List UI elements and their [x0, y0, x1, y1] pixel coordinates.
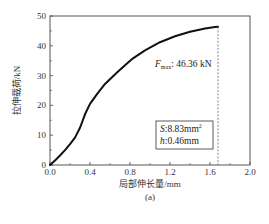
- y-tick-label: 40: [37, 41, 47, 51]
- x-tick-label: 0.4: [84, 167, 96, 177]
- figure-caption: (a): [145, 192, 155, 202]
- annotations: Fmax: 46.36 kNS:8.83mm2h:0.46mm: [154, 27, 218, 165]
- load-elongation-chart: 0.00.40.81.21.62.001020304050局部伸长量/mm拉伸载…: [0, 0, 269, 224]
- y-tick-label: 10: [37, 130, 47, 140]
- plot-frame: [50, 16, 250, 165]
- y-tick-label: 30: [37, 71, 47, 81]
- plot-axes: 0.00.40.81.21.62.001020304050局部伸长量/mm拉伸载…: [11, 11, 256, 202]
- x-tick-label: 1.2: [164, 167, 175, 177]
- thickness: h:0.46mm: [160, 136, 199, 146]
- x-tick-label: 0.0: [44, 167, 56, 177]
- x-tick-label: 1.6: [204, 167, 216, 177]
- y-axis-title: 拉伸载荷/kN: [11, 65, 22, 115]
- fmax-annotation: Fmax: 46.36 kN: [154, 59, 212, 70]
- y-tick-label: 0: [42, 160, 47, 170]
- y-tick-label: 20: [37, 100, 47, 110]
- y-tick-label: 50: [37, 11, 47, 21]
- x-tick-label: 0.8: [124, 167, 136, 177]
- cross-section-area: S:8.83mm2: [160, 123, 202, 134]
- x-tick-label: 2.0: [244, 167, 256, 177]
- x-axis-title: 局部伸长量/mm: [119, 178, 181, 189]
